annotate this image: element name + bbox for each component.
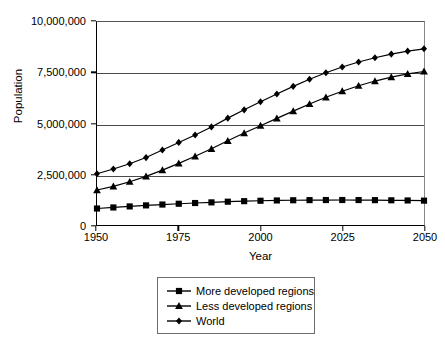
data-point-marker xyxy=(208,199,214,205)
data-point-marker xyxy=(290,197,296,203)
x-axis-tick-label: 2000 xyxy=(248,231,272,243)
data-point-marker xyxy=(257,198,263,204)
data-point-marker xyxy=(225,199,231,205)
x-axis-tick-label: 1950 xyxy=(84,231,108,243)
data-point-marker xyxy=(274,197,280,203)
triangle-marker xyxy=(165,299,193,313)
y-axis-tick-labels: 02,500,0005,000,0007,500,00010,000,000 xyxy=(0,21,86,226)
data-point-marker xyxy=(176,139,182,146)
data-point-marker xyxy=(323,69,329,76)
data-point-marker xyxy=(159,166,167,173)
data-point-marker xyxy=(110,204,116,210)
data-point-marker xyxy=(225,115,231,122)
data-point-marker xyxy=(405,197,411,203)
data-point-marker xyxy=(307,76,313,83)
series-more-developed-regions xyxy=(94,197,427,212)
data-point-marker xyxy=(356,58,362,65)
data-point-marker xyxy=(420,68,428,75)
data-point-marker xyxy=(388,51,394,58)
data-point-marker xyxy=(339,63,345,70)
data-point-marker xyxy=(191,152,199,159)
data-point-marker xyxy=(372,54,378,61)
data-point-marker xyxy=(339,197,345,203)
data-point-marker xyxy=(208,123,214,130)
data-point-marker xyxy=(143,154,149,161)
series-less-developed-regions xyxy=(93,68,428,194)
data-point-marker xyxy=(175,160,183,167)
data-point-marker xyxy=(421,45,427,52)
data-point-marker xyxy=(372,197,378,203)
legend-item-label: Less developed regions xyxy=(196,300,312,312)
series-line xyxy=(97,71,424,190)
data-point-marker xyxy=(127,203,133,209)
legend-item[interactable]: World xyxy=(165,313,308,328)
plot-area xyxy=(96,21,425,226)
x-axis-tick-label: 2050 xyxy=(413,231,437,243)
series-world xyxy=(94,45,427,177)
x-axis-tick-label: 1975 xyxy=(166,231,190,243)
legend-item-label: World xyxy=(196,315,225,327)
y-axis-tick-label: 7,500,000 xyxy=(37,67,86,78)
data-point-marker xyxy=(273,115,281,122)
data-point-marker xyxy=(110,165,116,172)
data-point-marker xyxy=(241,198,247,204)
x-axis-tick-labels: 19501975200020252050 xyxy=(96,231,425,245)
data-point-marker xyxy=(127,160,133,167)
data-point-marker xyxy=(159,201,165,207)
data-point-marker xyxy=(388,197,394,203)
data-point-marker xyxy=(257,98,263,105)
legend-item-label: More developed regions xyxy=(196,285,314,297)
data-point-marker xyxy=(240,129,248,136)
square-marker xyxy=(165,284,193,298)
data-point-marker xyxy=(192,200,198,206)
data-point-marker xyxy=(289,107,297,114)
data-point-marker xyxy=(94,205,100,211)
y-axis-tick-label: 0 xyxy=(80,221,86,232)
y-axis-tick-label: 2,500,000 xyxy=(37,169,86,180)
diamond-marker xyxy=(165,314,193,328)
data-point-marker xyxy=(257,122,265,129)
data-point-marker xyxy=(274,90,280,97)
data-point-marker xyxy=(241,106,247,113)
data-point-marker xyxy=(224,137,232,144)
legend-item[interactable]: More developed regions xyxy=(165,283,308,298)
data-point-marker xyxy=(421,198,427,204)
data-point-marker xyxy=(94,170,100,177)
chart-page: Population 02,500,0005,000,0007,500,0001… xyxy=(0,0,445,351)
data-point-marker xyxy=(323,197,329,203)
data-point-marker xyxy=(405,48,411,55)
legend-item[interactable]: Less developed regions xyxy=(165,298,308,313)
data-point-marker xyxy=(159,146,165,153)
x-axis-title: Year xyxy=(96,250,425,262)
data-point-marker xyxy=(208,145,216,152)
y-axis-tick-label: 10,000,000 xyxy=(31,16,86,27)
data-point-marker xyxy=(306,100,314,107)
data-point-marker xyxy=(142,172,150,179)
x-axis-tick-label: 2025 xyxy=(331,231,355,243)
series-layer xyxy=(97,22,424,225)
data-point-marker xyxy=(143,202,149,208)
y-axis-tick-label: 5,000,000 xyxy=(37,118,86,129)
chart-legend: More developed regionsLess developed reg… xyxy=(157,277,315,334)
data-point-marker xyxy=(356,197,362,203)
data-point-marker xyxy=(192,131,198,138)
data-point-marker xyxy=(306,197,312,203)
data-point-marker xyxy=(290,83,296,90)
data-point-marker xyxy=(176,201,182,207)
